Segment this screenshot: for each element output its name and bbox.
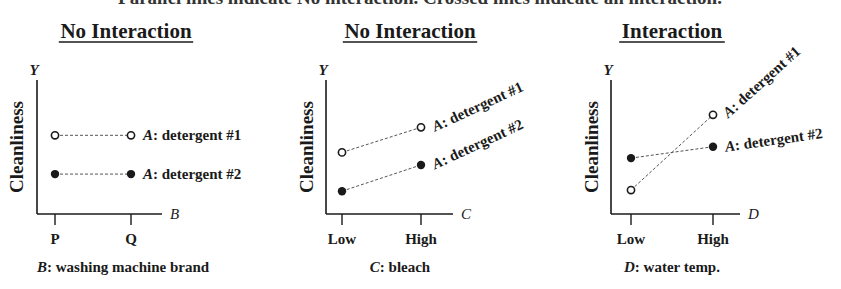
x-axis-caption: B: washing machine brand (36, 259, 210, 275)
filled-point (709, 143, 717, 151)
x-axis-letter: C (461, 206, 472, 222)
y-axis-label: Cleanliness (296, 101, 317, 193)
panel-2: No InteractionYCCleanlinessLowHighC: ble… (296, 19, 525, 275)
series-name: : detergent #1 (153, 127, 241, 143)
series-line-2 (342, 165, 421, 191)
x-tick-label: Low (328, 231, 357, 247)
open-point (627, 186, 634, 193)
series-label: A: detergent #2 (723, 125, 824, 155)
x-tick-label: Q (125, 231, 137, 247)
factor-letter: A (142, 127, 153, 143)
series-name: : detergent #2 (153, 166, 241, 182)
y-axis-label: Cleanliness (581, 101, 602, 193)
x-tick-label: P (50, 231, 59, 247)
panel-1: No InteractionYBCleanlinessPQB: washing … (6, 19, 241, 275)
series-label: A: detergent #2 (142, 166, 241, 182)
series-line-1 (342, 127, 421, 152)
factor-letter: A (142, 166, 153, 182)
figure-title: Parallel lines indicate No interaction. … (118, 0, 722, 8)
x-axis-letter: D (747, 206, 759, 222)
open-point (709, 111, 716, 118)
series-name: : detergent #2 (734, 125, 824, 153)
caption-text: : bleach (380, 259, 431, 275)
y-axis-letter: Y (603, 62, 614, 78)
panel-title: Interaction (622, 19, 723, 43)
series-name: : detergent #1 (727, 43, 803, 114)
open-point (417, 124, 424, 131)
x-axis-letter: B (170, 206, 179, 222)
y-axis-letter: Y (29, 62, 40, 78)
y-axis-label: Cleanliness (6, 101, 27, 193)
caption-text: : water temp. (635, 259, 720, 275)
caption-text: : washing machine brand (47, 259, 210, 275)
filled-point (627, 154, 635, 162)
filled-point (338, 187, 346, 195)
open-point (338, 149, 345, 156)
series-label: A: detergent #1 (719, 43, 804, 121)
open-point (127, 132, 134, 139)
caption-variable: B (36, 259, 47, 275)
x-tick-label: High (697, 231, 729, 247)
open-point (51, 132, 58, 139)
panel-title: No Interaction (60, 19, 192, 43)
y-axis-letter: Y (318, 62, 329, 78)
x-tick-label: Low (617, 231, 646, 247)
filled-point (127, 170, 135, 178)
filled-point (51, 170, 59, 178)
x-axis-caption: C: bleach (370, 259, 431, 275)
panel-title: No Interaction (344, 19, 476, 43)
filled-point (417, 161, 425, 169)
x-tick-label: High (405, 231, 437, 247)
caption-variable: D (623, 259, 635, 275)
interaction-figure: Parallel lines indicate No interaction. … (0, 0, 841, 289)
panel-3: InteractionYDCleanlinessLowHighD: water … (581, 19, 823, 275)
series-label: A: detergent #1 (142, 127, 241, 143)
series-line-2 (631, 147, 713, 158)
x-axis-caption: D: water temp. (623, 259, 720, 275)
